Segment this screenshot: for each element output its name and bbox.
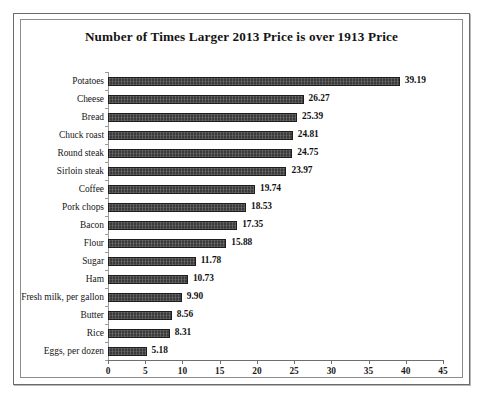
y-axis-tick xyxy=(105,126,108,127)
bar[interactable] xyxy=(108,149,292,158)
y-axis-tick xyxy=(105,342,108,343)
category-label: Bacon xyxy=(80,220,104,230)
bar-row[interactable]: 5.18 xyxy=(108,347,443,356)
bar-row[interactable]: 26.27 xyxy=(108,95,443,104)
bar-row[interactable]: 39.19 xyxy=(108,77,443,86)
bar-value-label: 11.78 xyxy=(201,255,222,265)
bar[interactable] xyxy=(108,185,255,194)
y-axis-tick xyxy=(105,324,108,325)
bar[interactable] xyxy=(108,257,196,266)
bar-row[interactable]: 15.88 xyxy=(108,239,443,248)
category-label: Sirloin steak xyxy=(57,166,104,176)
bar-value-label: 25.39 xyxy=(302,111,323,121)
x-axis-tick-label: 30 xyxy=(327,366,336,376)
category-label: Sugar xyxy=(82,256,104,266)
category-label: Bread xyxy=(82,112,104,122)
y-axis-tick xyxy=(105,234,108,235)
x-axis-line xyxy=(108,360,443,361)
bar[interactable] xyxy=(108,203,246,212)
x-axis-tick xyxy=(369,360,370,364)
y-axis-tick xyxy=(105,144,108,145)
bar[interactable] xyxy=(108,221,237,230)
bar-row[interactable]: 23.97 xyxy=(108,167,443,176)
bar-value-label: 24.75 xyxy=(297,147,318,157)
x-axis-tick-label: 0 xyxy=(106,366,111,376)
bar-value-label: 15.88 xyxy=(231,237,252,247)
y-axis-tick xyxy=(105,180,108,181)
bar-value-label: 26.27 xyxy=(309,93,330,103)
bar-row[interactable]: 17.35 xyxy=(108,221,443,230)
bar-value-label: 10.73 xyxy=(193,273,214,283)
category-label: Butter xyxy=(81,310,104,320)
y-axis-tick xyxy=(105,90,108,91)
category-label: Chuck roast xyxy=(59,130,104,140)
bar-row[interactable]: 8.31 xyxy=(108,329,443,338)
plot-area: 05101520253035404539.1926.2725.3924.8124… xyxy=(108,72,443,360)
y-axis-tick xyxy=(105,198,108,199)
x-axis-tick xyxy=(294,360,295,364)
x-axis-tick-label: 20 xyxy=(252,366,261,376)
bar-row[interactable]: 10.73 xyxy=(108,275,443,284)
x-axis-tick xyxy=(108,360,109,364)
category-label: Flour xyxy=(84,238,104,248)
bar-value-label: 5.18 xyxy=(152,345,168,355)
y-axis-tick xyxy=(105,360,108,361)
bar[interactable] xyxy=(108,347,147,356)
x-axis-tick-label: 40 xyxy=(401,366,410,376)
bar-value-label: 8.56 xyxy=(177,309,193,319)
bar[interactable] xyxy=(108,329,170,338)
bar-row[interactable]: 18.53 xyxy=(108,203,443,212)
bar[interactable] xyxy=(108,167,286,176)
bar[interactable] xyxy=(108,77,400,86)
category-label: Ham xyxy=(86,274,104,284)
bar-value-label: 23.97 xyxy=(291,165,312,175)
bar[interactable] xyxy=(108,131,293,140)
category-label: Fresh milk, per gallon xyxy=(21,292,104,302)
bar-row[interactable]: 11.78 xyxy=(108,257,443,266)
y-axis-tick xyxy=(105,216,108,217)
x-axis-tick xyxy=(331,360,332,364)
category-label: Round steak xyxy=(57,148,104,158)
bar-value-label: 19.74 xyxy=(260,183,281,193)
chart-title: Number of Times Larger 2013 Price is ove… xyxy=(20,29,463,45)
bar[interactable] xyxy=(108,239,226,248)
x-axis-tick xyxy=(182,360,183,364)
category-label: Potatoes xyxy=(72,76,104,86)
y-axis-tick xyxy=(105,108,108,109)
bar-value-label: 24.81 xyxy=(298,129,319,139)
category-label: Pork chops xyxy=(62,202,104,212)
x-axis-tick-label: 10 xyxy=(178,366,187,376)
x-axis-tick xyxy=(257,360,258,364)
x-axis-tick-label: 45 xyxy=(438,366,447,376)
x-axis-tick xyxy=(406,360,407,364)
figure-root: Number of Times Larger 2013 Price is ove… xyxy=(0,0,485,407)
bar-row[interactable]: 19.74 xyxy=(108,185,443,194)
y-axis-tick xyxy=(105,72,108,73)
y-axis-tick xyxy=(105,162,108,163)
bar-value-label: 39.19 xyxy=(405,75,426,85)
x-axis-tick-label: 25 xyxy=(289,366,298,376)
bar[interactable] xyxy=(108,293,182,302)
bar[interactable] xyxy=(108,275,188,284)
bar[interactable] xyxy=(108,311,172,320)
bar[interactable] xyxy=(108,95,304,104)
bar-value-label: 17.35 xyxy=(242,219,263,229)
x-axis-tick-label: 15 xyxy=(215,366,224,376)
y-axis-tick xyxy=(105,288,108,289)
bar-row[interactable]: 25.39 xyxy=(108,113,443,122)
bar-row[interactable]: 24.75 xyxy=(108,149,443,158)
bar-row[interactable]: 24.81 xyxy=(108,131,443,140)
category-axis-labels: PotatoesCheeseBreadChuck roastRound stea… xyxy=(14,72,104,360)
bar[interactable] xyxy=(108,113,297,122)
bar-value-label: 9.90 xyxy=(187,291,203,301)
y-axis-tick xyxy=(105,270,108,271)
bar-row[interactable]: 8.56 xyxy=(108,311,443,320)
bar-value-label: 18.53 xyxy=(251,201,272,211)
x-axis-tick xyxy=(220,360,221,364)
y-axis-tick xyxy=(105,252,108,253)
x-axis-tick-label: 35 xyxy=(364,366,373,376)
category-label: Eggs, per dozen xyxy=(44,346,104,356)
category-label: Cheese xyxy=(77,94,104,104)
category-label: Rice xyxy=(87,328,104,338)
bar-row[interactable]: 9.90 xyxy=(108,293,443,302)
